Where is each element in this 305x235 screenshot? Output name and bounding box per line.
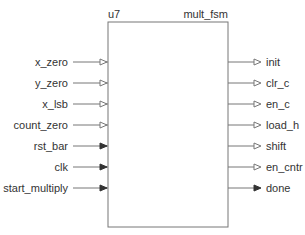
input-label: x_zero [35,56,68,68]
input-port-clk: clk [55,161,108,173]
input-port-count-zero: count_zero [14,119,108,131]
output-label: shift [266,140,286,152]
open-arrow-icon [254,59,261,65]
input-label: rst_bar [34,140,69,152]
input-label: y_zero [35,77,68,89]
open-arrow-icon [100,59,107,65]
output-port-en-c: en_c [228,98,290,110]
open-arrow-icon [254,80,261,86]
open-arrow-icon [254,101,261,107]
input-port-rst-bar: rst_bar [34,140,108,152]
input-label: start_multiply [3,182,68,194]
output-port-init: init [228,56,280,68]
module-block [108,22,228,227]
input-port-x-zero: x_zero [35,56,108,68]
input-label: count_zero [14,119,68,131]
output-label: en_cntr [266,161,303,173]
input-port-start-multiply: start_multiply [3,182,108,194]
output-port-load-h: load_h [228,119,299,131]
open-arrow-icon [254,122,261,128]
output-port-clr-c: clr_c [228,77,290,89]
open-arrow-icon [254,164,261,170]
output-label: load_h [266,119,299,131]
input-port-x-lsb: x_lsb [42,98,108,110]
output-label: en_c [266,98,290,110]
module-name: mult_fsm [183,8,228,20]
open-arrow-icon [100,122,107,128]
filled-arrow-icon [100,164,107,170]
instance-name: u7 [108,8,120,20]
input-label: x_lsb [42,98,68,110]
output-label: done [266,182,290,194]
output-port-shift: shift [228,140,286,152]
output-port-done: done [228,182,290,194]
input-port-y-zero: y_zero [35,77,108,89]
input-label: clk [55,161,69,173]
output-ports: initclr_cen_cload_hshiften_cntrdone [228,56,303,194]
filled-arrow-icon [254,185,261,191]
filled-arrow-icon [100,185,107,191]
open-arrow-icon [100,80,107,86]
open-arrow-icon [100,101,107,107]
open-arrow-icon [254,143,261,149]
filled-arrow-icon [100,143,107,149]
output-label: init [266,56,280,68]
output-port-en-cntr: en_cntr [228,161,303,173]
block-diagram: u7 mult_fsm x_zeroy_zerox_lsbcount_zeror… [0,0,305,235]
output-label: clr_c [266,77,290,89]
input-ports: x_zeroy_zerox_lsbcount_zerorst_barclksta… [3,56,108,194]
